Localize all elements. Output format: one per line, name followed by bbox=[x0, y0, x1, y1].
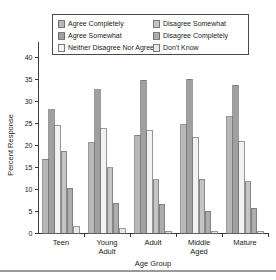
x-axis-category-label: Young bbox=[97, 238, 118, 247]
x-axis-category-label: Middle bbox=[188, 238, 210, 247]
bar bbox=[227, 117, 233, 233]
legend-label: Don't Know bbox=[163, 44, 200, 51]
bar bbox=[135, 135, 141, 233]
x-axis-category-label: Adult bbox=[98, 247, 116, 256]
legend-item[interactable]: Disagree Completely bbox=[153, 32, 228, 40]
y-axis-tick-label: 20 bbox=[25, 142, 33, 149]
bar bbox=[55, 126, 61, 233]
bar bbox=[107, 168, 113, 233]
legend-item[interactable]: Neither Disagree Nor Agree bbox=[58, 44, 154, 52]
y-axis-tick-label: 40 bbox=[25, 54, 33, 61]
bar bbox=[251, 208, 257, 233]
y-axis-tick-label: 0 bbox=[29, 230, 33, 237]
bar bbox=[153, 180, 159, 233]
bar bbox=[113, 203, 119, 233]
legend-swatch bbox=[58, 33, 65, 40]
bar-group bbox=[89, 90, 125, 233]
bar bbox=[61, 151, 67, 233]
bar bbox=[181, 125, 187, 233]
y-axis-tick-label: 30 bbox=[25, 98, 33, 105]
bar bbox=[205, 211, 211, 233]
legend-label: Agree Somewhat bbox=[68, 32, 122, 40]
y-axis-tick-label: 10 bbox=[25, 186, 33, 193]
y-axis-title: Percent Response bbox=[6, 114, 15, 176]
bar-group bbox=[181, 79, 217, 233]
bar bbox=[257, 232, 263, 233]
legend-item[interactable]: Disagree Somewhat bbox=[153, 20, 226, 28]
bar bbox=[187, 79, 193, 233]
bar bbox=[67, 188, 73, 233]
bar-group bbox=[227, 85, 263, 233]
bar bbox=[159, 204, 165, 233]
legend-label: Neither Disagree Nor Agree bbox=[68, 44, 154, 52]
bar bbox=[89, 143, 95, 233]
bar bbox=[211, 232, 217, 233]
bar bbox=[141, 80, 147, 233]
legend-label: Agree Completely bbox=[68, 20, 124, 28]
bar-chart: 0510152025303540Percent ResponseTeenYoun… bbox=[0, 0, 276, 280]
bar bbox=[101, 129, 107, 233]
y-axis-tick-label: 5 bbox=[29, 208, 33, 215]
legend-swatch bbox=[58, 21, 65, 28]
bar-group bbox=[43, 110, 79, 233]
y-axis-tick-label: 15 bbox=[25, 164, 33, 171]
y-axis-tick-label: 35 bbox=[25, 76, 33, 83]
bar bbox=[119, 229, 125, 233]
legend-label: Disagree Completely bbox=[163, 32, 228, 40]
x-axis-title: Age Group bbox=[135, 259, 171, 268]
bar bbox=[165, 231, 171, 233]
bar bbox=[245, 182, 251, 233]
x-axis-category-label: Teen bbox=[53, 238, 69, 247]
bar bbox=[49, 110, 55, 233]
x-axis-category-label: Adult bbox=[144, 238, 162, 247]
bar bbox=[233, 85, 239, 233]
chart-canvas: 0510152025303540Percent ResponseTeenYoun… bbox=[0, 0, 276, 280]
bar bbox=[73, 227, 79, 233]
legend-item[interactable]: Agree Completely bbox=[58, 20, 124, 28]
bar bbox=[193, 137, 199, 233]
bar-group bbox=[135, 80, 171, 233]
bar bbox=[239, 141, 245, 233]
legend-label: Disagree Somewhat bbox=[163, 20, 226, 28]
bar bbox=[95, 90, 101, 233]
bar bbox=[43, 159, 49, 233]
x-axis-category-label: Mature bbox=[233, 238, 256, 247]
legend-swatch bbox=[153, 45, 160, 52]
bar bbox=[147, 131, 153, 233]
x-axis-category-label: Aged bbox=[190, 247, 208, 256]
bar bbox=[199, 179, 205, 233]
legend-swatch bbox=[153, 33, 160, 40]
legend-swatch bbox=[153, 21, 160, 28]
legend-item[interactable]: Agree Somewhat bbox=[58, 32, 122, 40]
legend-swatch bbox=[58, 45, 65, 52]
y-axis-tick-label: 25 bbox=[25, 120, 33, 127]
